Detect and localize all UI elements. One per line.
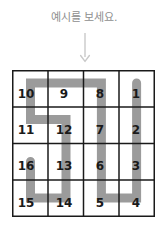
cell-label: 9 [60, 87, 68, 101]
cell-label: 6 [96, 159, 104, 173]
cell-label: 12 [56, 123, 73, 137]
instruction-text: 예시를 보세요. [0, 11, 168, 24]
cell-label: 7 [96, 123, 104, 137]
cell-label: 14 [56, 196, 73, 210]
cell-label: 4 [132, 196, 140, 210]
cell-label: 15 [18, 196, 35, 210]
example-illustration: 예시를 보세요. [0, 0, 168, 237]
cell-label: 3 [132, 159, 140, 173]
puzzle-grid: 10 9 8 1 11 12 7 2 16 13 6 3 15 14 5 4 [12, 70, 155, 217]
cell-label: 1 [132, 87, 140, 101]
cell-label: 2 [132, 123, 140, 137]
cell-label: 5 [96, 196, 104, 210]
cell-label: 8 [96, 87, 104, 101]
cell-label: 11 [18, 123, 35, 137]
cell-label: 16 [18, 159, 35, 173]
cell-label: 10 [18, 87, 35, 101]
arrow-down-icon [78, 33, 92, 63]
cell-label: 13 [56, 159, 73, 173]
